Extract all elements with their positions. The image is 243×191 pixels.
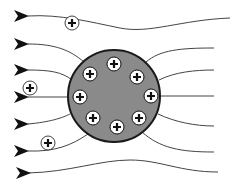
field-line xyxy=(28,114,70,124)
free-charge xyxy=(23,81,37,95)
field-line xyxy=(158,114,214,126)
field-line xyxy=(28,134,88,151)
surface-charge xyxy=(144,89,158,103)
field-diagram xyxy=(0,0,243,191)
surface-charge xyxy=(73,90,87,104)
surface-charge xyxy=(130,70,144,84)
field-line xyxy=(28,160,218,173)
arrow-icon xyxy=(14,10,29,22)
arrow-icon xyxy=(14,64,29,76)
field-line xyxy=(28,44,84,62)
arrow-icon xyxy=(14,118,29,130)
field-line xyxy=(159,70,214,80)
free-charge xyxy=(41,136,55,150)
free-charge xyxy=(65,16,79,30)
field-line xyxy=(142,132,214,152)
surface-charge xyxy=(86,111,100,125)
field-line xyxy=(28,16,230,30)
surface-charge xyxy=(107,57,121,71)
surface-charge xyxy=(110,120,124,134)
arrow-icon xyxy=(14,38,29,50)
surface-charge xyxy=(83,67,97,81)
diagram-canvas: Field lines around a positively charged … xyxy=(0,0,243,191)
surface-charge xyxy=(132,111,146,125)
field-line xyxy=(146,48,214,62)
field-line xyxy=(28,70,72,80)
arrow-icon xyxy=(14,145,29,157)
arrow-icon xyxy=(16,167,31,179)
